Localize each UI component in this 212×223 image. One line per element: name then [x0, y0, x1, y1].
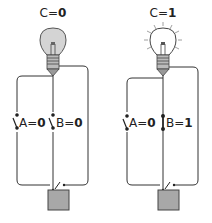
- switch-label-text: A=: [129, 116, 147, 130]
- right-switch-a-label: A=0: [129, 117, 156, 129]
- output-value: 0: [58, 6, 66, 20]
- left-switch-b-label: B=0: [56, 117, 83, 129]
- bulb-on-icon: [144, 22, 182, 76]
- output-label-text: C=: [40, 6, 58, 20]
- switch-value: 1: [184, 116, 192, 130]
- switch-b-left: [49, 112, 56, 132]
- output-label-text: C=: [150, 6, 168, 20]
- switch-value: 0: [147, 116, 155, 130]
- switch-value: 0: [37, 116, 45, 130]
- left-output-label: C=0: [40, 7, 67, 19]
- left-loop-wire: [127, 78, 163, 185]
- output-value: 1: [168, 6, 176, 20]
- battery-right: [158, 182, 179, 210]
- or-gate-circuits-diagram: [0, 0, 212, 223]
- right-switch-b-label: B=1: [166, 117, 193, 129]
- left-loop-wire: [17, 76, 53, 185]
- right-output-label: C=1: [150, 7, 177, 19]
- left-switch-a-label: A=0: [19, 117, 46, 129]
- switch-value: 0: [74, 116, 82, 130]
- switch-b-right: [162, 115, 164, 130]
- bulb-off-icon: [40, 28, 66, 76]
- switch-label-text: A=: [19, 116, 37, 130]
- switch-label-text: B=: [166, 116, 184, 130]
- battery-left: [48, 182, 69, 210]
- switch-label-text: B=: [56, 116, 74, 130]
